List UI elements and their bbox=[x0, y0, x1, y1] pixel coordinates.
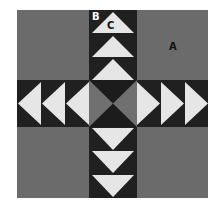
corner-square-top-left bbox=[17, 10, 89, 80]
label-a: A bbox=[169, 41, 177, 52]
corner-square-bottom-left bbox=[17, 127, 89, 198]
label-c: C bbox=[107, 20, 114, 31]
label-b: B bbox=[92, 11, 100, 22]
corner-square-bottom-right bbox=[137, 127, 208, 198]
quilt-block-diagram: A B C bbox=[0, 0, 221, 210]
